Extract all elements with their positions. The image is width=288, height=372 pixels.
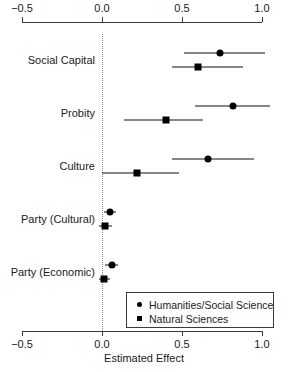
tick-label: 0.5 <box>174 338 189 350</box>
tick-label: −0.5 <box>11 338 33 350</box>
point-estimate-square <box>102 223 109 230</box>
tick-label: 1.0 <box>254 2 269 14</box>
forest-plot: −0.50.00.51.0 Social CapitalProbityCultu… <box>0 0 288 372</box>
legend-label-natural-sciences: Natural Sciences <box>149 313 228 325</box>
bottom-axis-line <box>22 331 262 332</box>
tick-label: −0.5 <box>11 2 33 14</box>
tick-label: 0.0 <box>94 2 109 14</box>
confidence-interval-bar <box>172 67 242 68</box>
point-estimate-square <box>195 64 202 71</box>
top-axis-line <box>22 22 262 23</box>
point-estimate-circle <box>108 262 115 269</box>
tick-mark <box>262 17 263 22</box>
point-estimate-circle <box>230 103 237 110</box>
tick-mark <box>22 17 23 22</box>
confidence-interval-bar <box>184 53 266 54</box>
tick-label: 1.0 <box>254 338 269 350</box>
square-marker-icon <box>134 316 145 321</box>
legend-label-humanities-social-science: Humanities/Social Science <box>149 299 273 311</box>
legend-item-natural-sciences: Natural Sciences <box>134 311 228 326</box>
tick-mark <box>182 331 183 336</box>
legend-item-humanities-social-science: Humanities/Social Science <box>134 297 273 312</box>
legend: Humanities/Social Science Natural Scienc… <box>126 292 274 328</box>
category-label: Social Capital <box>28 54 95 66</box>
x-axis-title: Estimated Effect <box>0 352 288 364</box>
tick-mark <box>102 17 103 22</box>
category-label: Probity <box>61 107 95 119</box>
tick-mark <box>182 17 183 22</box>
tick-mark <box>102 331 103 336</box>
tick-label: 0.5 <box>174 2 189 14</box>
category-label: Party (Cultural) <box>21 213 95 225</box>
circle-marker-icon <box>134 302 145 307</box>
category-label: Culture <box>60 160 95 172</box>
category-label: Party (Economic) <box>11 266 95 278</box>
point-estimate-square <box>163 117 170 124</box>
point-estimate-square <box>100 276 107 283</box>
confidence-interval-bar <box>172 159 254 160</box>
point-estimate-circle <box>107 209 114 216</box>
tick-label: 0.0 <box>94 338 109 350</box>
tick-mark <box>22 331 23 336</box>
point-estimate-circle <box>217 50 224 57</box>
point-estimate-square <box>134 170 141 177</box>
point-estimate-circle <box>204 156 211 163</box>
zero-reference-line <box>102 34 104 331</box>
tick-mark <box>262 331 263 336</box>
